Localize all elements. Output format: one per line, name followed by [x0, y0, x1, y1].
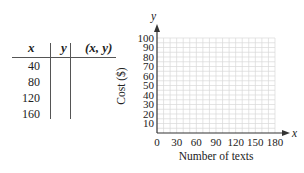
x-tick-label: 30 [171, 136, 183, 148]
x-tick-labels: 0306090120150180 [154, 136, 284, 148]
x-axis-label: Number of texts [179, 150, 254, 162]
grid-lines [157, 38, 275, 133]
x-tick-label: 90 [211, 136, 223, 148]
x-axis-variable: x [291, 127, 298, 139]
x-tick-label: 0 [154, 136, 160, 148]
y-axis-label: Cost ($) [115, 67, 128, 105]
y-axis-arrow-icon [154, 24, 160, 32]
x-tick-label: 180 [267, 136, 284, 148]
y-tick-labels: 102030405060708090100 [138, 32, 155, 130]
coordinate-graph: x y 102030405060708090100 03060901201501… [0, 0, 304, 173]
y-axis-variable: y [150, 10, 157, 23]
y-tick-label: 100 [138, 32, 155, 44]
x-tick-label: 120 [227, 136, 244, 148]
x-tick-label: 150 [247, 136, 264, 148]
x-tick-label: 60 [191, 136, 203, 148]
